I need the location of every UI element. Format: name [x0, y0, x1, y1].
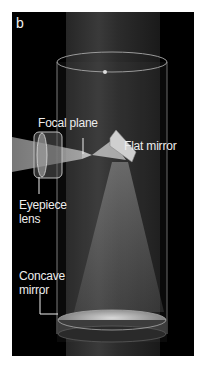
label-focal-plane: Focal plane: [38, 116, 98, 130]
label-flat-mirror: Flat mirror: [124, 139, 176, 153]
label-mirror: mirror: [19, 283, 49, 297]
label-lens: lens: [19, 212, 40, 226]
telescope-diagram-panel: b Focal plane Flat mirror Eyepiece lens …: [12, 12, 194, 356]
label-eyepiece: Eyepiece: [19, 198, 67, 212]
telescope-illustration: [12, 12, 194, 356]
label-concave: Concave: [19, 269, 65, 283]
panel-letter: b: [16, 16, 24, 30]
glint: [103, 70, 107, 74]
